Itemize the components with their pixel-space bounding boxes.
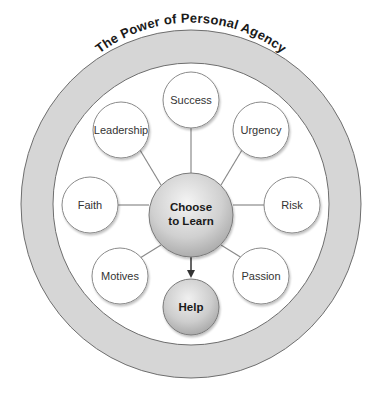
node-label-leadership: Leadership bbox=[94, 124, 148, 136]
node-label-passion: Passion bbox=[241, 270, 280, 282]
node-label-faith: Faith bbox=[78, 199, 102, 211]
node-label-risk: Risk bbox=[281, 199, 303, 211]
hub-label-line1: Choose bbox=[170, 201, 212, 213]
help-label: Help bbox=[179, 301, 204, 313]
node-label-motives: Motives bbox=[101, 270, 139, 282]
node-label-urgency: Urgency bbox=[241, 124, 282, 136]
personal-agency-diagram: The Power of Personal Agency Success Urg… bbox=[0, 0, 381, 401]
hub-label-line2: to Learn bbox=[168, 215, 213, 227]
node-label-success: Success bbox=[170, 94, 212, 106]
